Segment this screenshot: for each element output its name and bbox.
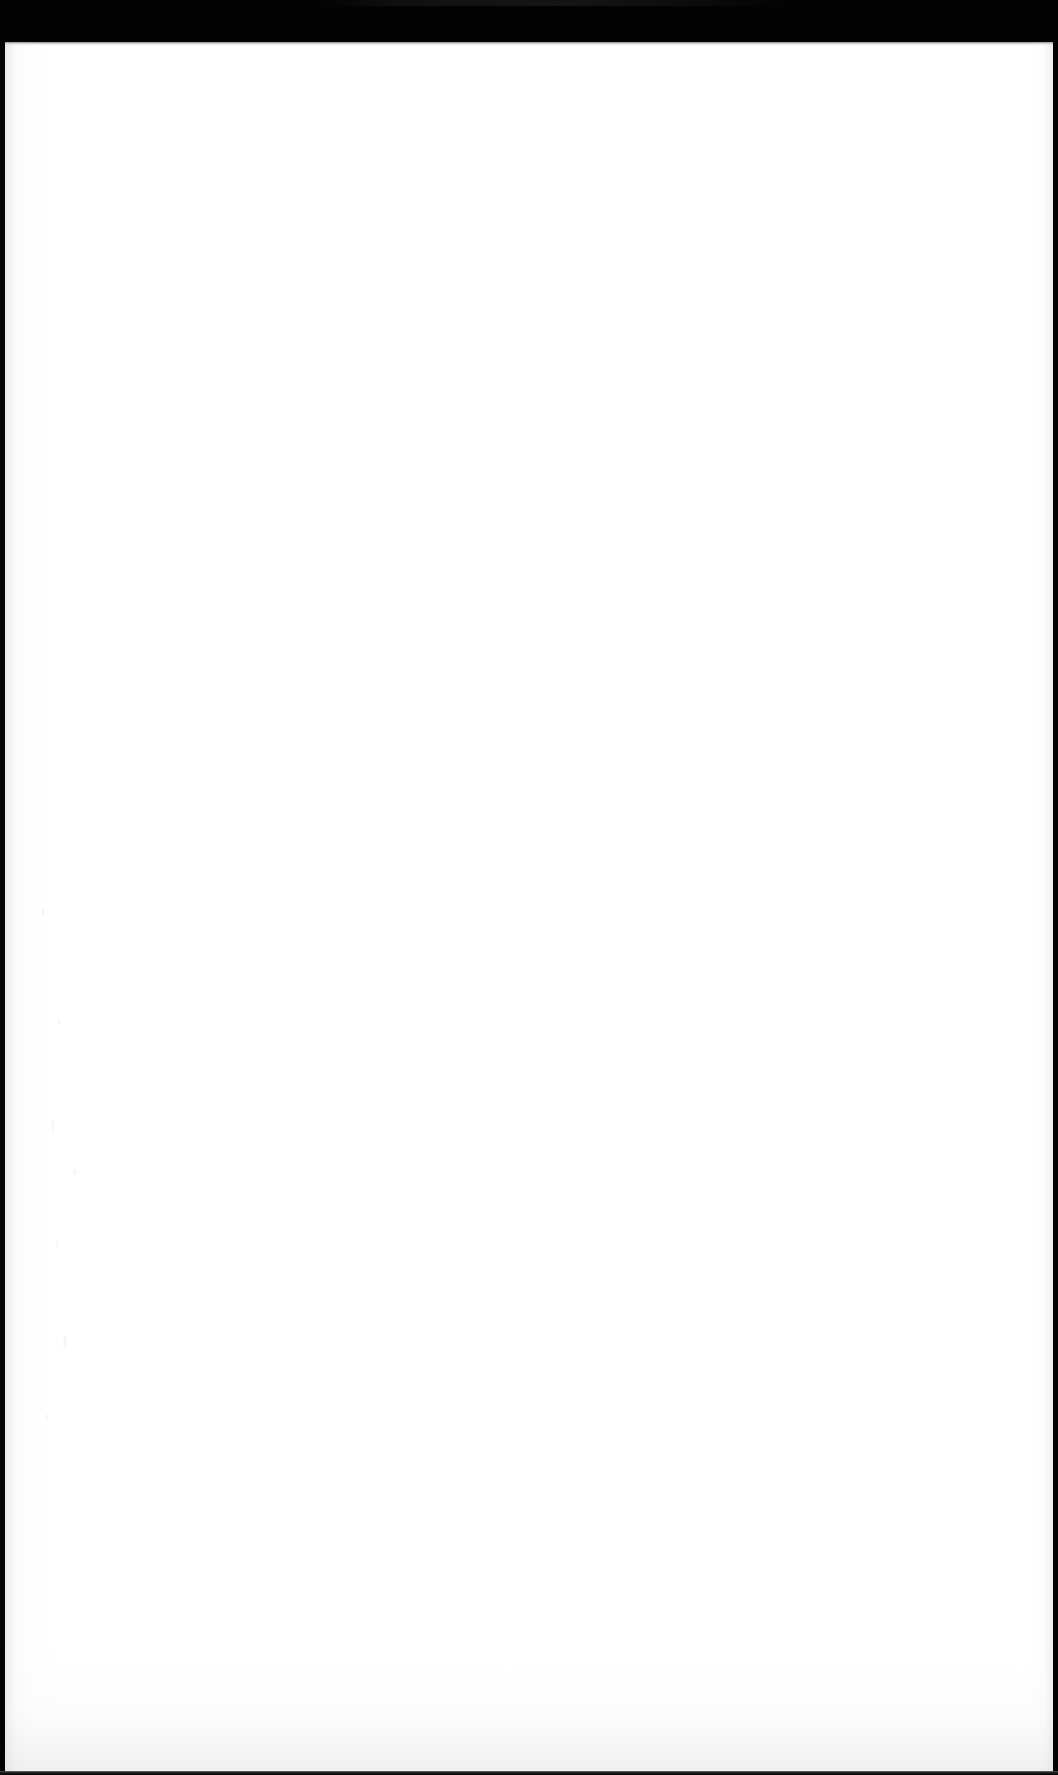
paper-left-gutter-shadow <box>5 42 69 1772</box>
page-body-text <box>5 42 6 43</box>
scanner-right-edge-strip <box>1053 0 1058 1775</box>
paper-speckle-noise <box>23 872 213 1472</box>
paper-right-edge-shadow <box>1023 42 1053 1772</box>
paper-sheet <box>5 42 1053 1772</box>
paper-top-edge-shadow <box>5 42 1053 46</box>
scanned-page-view <box>0 0 1058 1775</box>
scanner-bottom-bar <box>0 1771 1058 1775</box>
paper-bottom-shadow <box>5 1622 1053 1772</box>
scanner-left-edge-strip <box>0 0 5 1775</box>
